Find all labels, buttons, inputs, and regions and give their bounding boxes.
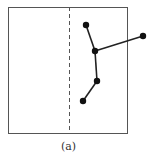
graph-edge xyxy=(83,81,97,101)
graph-node xyxy=(92,48,98,54)
graph-node xyxy=(83,22,89,28)
graph-edge xyxy=(95,51,97,81)
graph-node xyxy=(140,33,146,39)
graph-node xyxy=(94,78,100,84)
graph-node xyxy=(80,98,86,104)
diagram-figure xyxy=(0,0,155,159)
frame-box xyxy=(9,8,128,134)
graph-edge xyxy=(95,36,143,51)
graph-edges xyxy=(83,25,143,101)
figure-caption: (a) xyxy=(0,140,137,153)
graph-edge xyxy=(86,25,95,51)
